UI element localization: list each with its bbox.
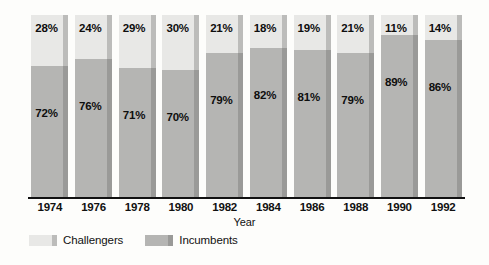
bar-shadow-top — [413, 15, 418, 35]
bar-column: 19%81% — [294, 15, 331, 197]
chart-legend: ChallengersIncumbents — [29, 234, 238, 246]
x-axis-tick-label: 1986 — [294, 201, 331, 213]
bar-segment-incumbents: 79% — [206, 53, 238, 197]
bar-segment-challengers: 28% — [31, 15, 63, 66]
x-axis-tick-label: 1984 — [250, 201, 287, 213]
bar-value-label-challengers: 14% — [429, 23, 451, 35]
bar-value-label-incumbents: 79% — [341, 95, 363, 107]
bar-stack: 21%79% — [337, 15, 369, 197]
bar-shadow-edge — [107, 15, 112, 197]
bar-stack: 30%70% — [162, 15, 194, 197]
x-axis-title-text: Year — [234, 216, 256, 228]
bar-segment-incumbents: 86% — [425, 40, 457, 197]
bar-column: 21%79% — [337, 15, 374, 197]
bar-value-label-incumbents: 76% — [79, 101, 101, 113]
bar-shadow-top — [369, 15, 374, 53]
legend-item[interactable]: Incumbents — [145, 234, 237, 246]
bar-value-label-challengers: 24% — [79, 23, 101, 35]
bar-value-label-challengers: 30% — [166, 23, 188, 35]
bar-shadow-edge — [194, 15, 199, 197]
bar-column: 18%82% — [250, 15, 287, 197]
bar-value-label-challengers: 21% — [210, 23, 232, 35]
bar-stack: 14%86% — [425, 15, 457, 197]
bar-shadow-edge — [238, 15, 243, 197]
bar-shadow-top — [282, 15, 287, 48]
bar-column: 28%72% — [31, 15, 68, 197]
bar-value-label-incumbents: 89% — [385, 77, 407, 89]
bar-segment-challengers: 19% — [294, 15, 326, 50]
x-axis-tick-label: 1988 — [337, 201, 374, 213]
bar-shadow-edge — [457, 15, 462, 197]
x-axis-tick-labels: 1974197619781980198219841986198819901992 — [28, 201, 465, 217]
bar-value-label-incumbents: 71% — [123, 110, 145, 122]
legend-item[interactable]: Challengers — [29, 234, 123, 246]
bar-shadow-bottom — [282, 48, 287, 197]
bar-column: 21%79% — [206, 15, 243, 197]
bar-value-label-challengers: 21% — [341, 23, 363, 35]
legend-label: Incumbents — [179, 234, 237, 246]
stacked-bar-chart: 28%72%24%76%29%71%30%70%21%79%18%82%19%8… — [0, 0, 489, 265]
x-axis-tick-label: 1982 — [206, 201, 243, 213]
legend-swatch-icon — [29, 235, 57, 246]
x-axis-tick-label: 1978 — [119, 201, 156, 213]
x-axis-tick-label: 1990 — [381, 201, 418, 213]
bar-value-label-incumbents: 72% — [35, 108, 57, 120]
bar-shadow-edge — [282, 15, 287, 197]
bar-shadow-top — [107, 15, 112, 59]
bar-value-label-incumbents: 86% — [429, 82, 451, 94]
bar-segment-challengers: 14% — [425, 15, 457, 40]
x-axis-line — [28, 197, 465, 199]
bar-segment-challengers: 30% — [162, 15, 194, 70]
bar-stack: 19%81% — [294, 15, 326, 197]
bar-value-label-incumbents: 81% — [298, 92, 320, 104]
bar-shadow-top — [457, 15, 462, 40]
bar-segment-challengers: 24% — [75, 15, 107, 59]
legend-swatch-fill — [29, 235, 52, 246]
bar-shadow-edge — [413, 15, 418, 197]
bar-column: 14%86% — [425, 15, 462, 197]
bar-value-label-challengers: 18% — [254, 23, 276, 35]
bar-segment-incumbents: 82% — [250, 48, 282, 197]
bar-column: 11%89% — [381, 15, 418, 197]
bar-shadow-edge — [151, 15, 156, 197]
bar-shadow-bottom — [238, 53, 243, 197]
bar-segment-incumbents: 70% — [162, 70, 194, 197]
legend-swatch-edge — [52, 235, 57, 246]
bar-stack: 18%82% — [250, 15, 282, 197]
bar-shadow-bottom — [457, 40, 462, 197]
bar-shadow-bottom — [107, 59, 112, 197]
x-axis-tick-label: 1992 — [425, 201, 462, 213]
bar-shadow-top — [326, 15, 331, 50]
bar-stack: 24%76% — [75, 15, 107, 197]
bar-segment-incumbents: 76% — [75, 59, 107, 197]
bar-shadow-edge — [326, 15, 331, 197]
bar-value-label-challengers: 28% — [35, 23, 57, 35]
bar-segment-challengers: 21% — [337, 15, 369, 53]
legend-swatch-fill — [145, 235, 168, 246]
bar-segment-incumbents: 81% — [294, 50, 326, 197]
bar-shadow-bottom — [326, 50, 331, 197]
bar-shadow-bottom — [194, 70, 199, 197]
bar-column: 30%70% — [162, 15, 199, 197]
bar-shadow-bottom — [63, 66, 68, 197]
bar-stack: 21%79% — [206, 15, 238, 197]
bar-value-label-challengers: 19% — [298, 23, 320, 35]
bar-segment-challengers: 21% — [206, 15, 238, 53]
bar-value-label-incumbents: 82% — [254, 90, 276, 102]
legend-label: Challengers — [63, 234, 123, 246]
bar-shadow-bottom — [413, 35, 418, 197]
bar-shadow-top — [238, 15, 243, 53]
bar-stack: 29%71% — [119, 15, 151, 197]
bar-segment-challengers: 29% — [119, 15, 151, 68]
legend-swatch-edge — [168, 235, 173, 246]
bar-segment-incumbents: 72% — [31, 66, 63, 197]
bar-segment-challengers: 11% — [381, 15, 413, 35]
bar-stack: 28%72% — [31, 15, 63, 197]
bar-shadow-bottom — [151, 68, 156, 197]
bar-value-label-challengers: 11% — [385, 23, 407, 35]
bar-segment-incumbents: 71% — [119, 68, 151, 197]
x-axis-tick-label: 1974 — [31, 201, 68, 213]
x-axis-tick-label: 1980 — [162, 201, 199, 213]
bar-segment-incumbents: 79% — [337, 53, 369, 197]
x-axis-title: Year — [0, 216, 489, 228]
